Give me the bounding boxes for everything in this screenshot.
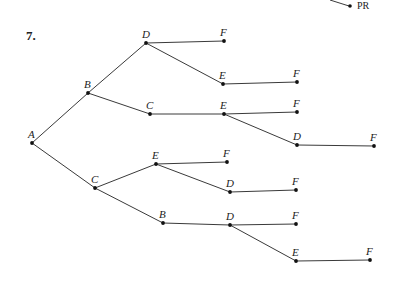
corner-label: PR: [357, 0, 370, 11]
node-label-E1: E: [218, 69, 226, 81]
node-label-F6: F: [291, 175, 299, 187]
node-E4: [294, 259, 298, 263]
node-label-F8: F: [365, 245, 373, 257]
node-D3: [228, 190, 232, 194]
edge-A-B: [32, 93, 88, 143]
node-E3: [154, 162, 158, 166]
node-E2: [222, 112, 226, 116]
node-label-E3: E: [151, 149, 159, 161]
node-label-E2: E: [219, 99, 227, 111]
node-F5: [225, 160, 229, 164]
edge-D4-E4: [230, 225, 296, 261]
node-F8: [368, 258, 372, 262]
node-F7: [294, 222, 298, 226]
edge-D1-F1: [146, 41, 224, 43]
node-D4: [228, 223, 232, 227]
edge-A-C3: [32, 143, 95, 188]
node-label-F5: F: [222, 147, 230, 159]
edge-E2-D2: [224, 114, 297, 145]
edge-D3-F6: [230, 190, 296, 192]
edge-E3-F5: [156, 162, 227, 164]
node-label-F3: F: [292, 97, 300, 109]
node-F2: [295, 80, 299, 84]
edge-E1-F2: [223, 82, 297, 84]
edge-B2-D4: [163, 223, 230, 225]
nodes-group: ABDFEFCEFDFCEFDFBDFEF: [27, 26, 377, 263]
node-A: [30, 141, 34, 145]
corner-edge: [330, 0, 349, 6]
corner-node: [348, 4, 352, 8]
node-F6: [294, 188, 298, 192]
edge-C3-B2: [95, 188, 163, 223]
node-F1: [222, 39, 226, 43]
edge-E4-F8: [296, 260, 370, 261]
node-label-F2: F: [292, 67, 300, 79]
edge-D4-F7: [230, 224, 296, 225]
node-label-D1: D: [141, 28, 150, 40]
edge-B-D1: [88, 43, 146, 93]
node-label-F1: F: [219, 26, 227, 38]
node-label-D3: D: [225, 177, 234, 189]
node-C2: [148, 112, 152, 116]
edge-D1-E1: [146, 43, 223, 84]
node-label-B: B: [84, 78, 91, 90]
node-label-F7: F: [291, 209, 299, 221]
node-label-E4: E: [291, 246, 299, 258]
node-label-C2: C: [146, 99, 154, 111]
node-F4: [372, 144, 376, 148]
problem-number: 7.: [26, 28, 36, 43]
node-F3: [295, 110, 299, 114]
node-label-C3: C: [91, 173, 99, 185]
edge-D2-F4: [297, 145, 374, 146]
edge-C3-E3: [95, 164, 156, 188]
tree-diagram: PR 7. ABDFEFCEFDFCEFDFBDFEF: [0, 0, 395, 286]
node-D1: [144, 41, 148, 45]
node-label-D2: D: [292, 130, 301, 142]
edge-B-C2: [88, 93, 150, 114]
node-label-A: A: [27, 128, 35, 140]
node-E1: [221, 82, 225, 86]
node-D2: [295, 143, 299, 147]
edges-group: [32, 41, 374, 261]
node-label-D4: D: [225, 210, 234, 222]
edge-E3-D3: [156, 164, 230, 192]
edge-E2-F3: [224, 112, 297, 114]
node-C3: [93, 186, 97, 190]
node-B: [86, 91, 90, 95]
node-label-B2: B: [159, 208, 166, 220]
node-label-F4: F: [369, 131, 377, 143]
node-B2: [161, 221, 165, 225]
